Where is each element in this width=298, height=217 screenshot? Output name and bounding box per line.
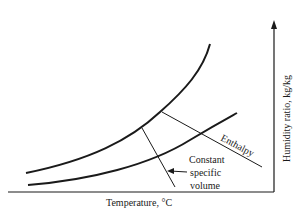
- y-axis-label: Humidity ratio, kg/kg: [281, 75, 292, 162]
- specific-volume-line: [142, 128, 175, 187]
- volume-pointer-arrow-icon: [167, 168, 174, 174]
- x-axis-label: Temperature, °C: [106, 197, 172, 208]
- enthalpy-label: Enthalpy: [219, 132, 256, 159]
- volume-label-1: Constant: [189, 154, 225, 165]
- volume-label-3: volume: [190, 180, 221, 191]
- psychrometric-diagram: Enthalpy Constant specific volume Temper…: [0, 0, 298, 217]
- saturation-curve: [26, 44, 210, 173]
- volume-label-2: specific: [190, 167, 222, 178]
- y-axis-arrow-icon: [271, 20, 277, 29]
